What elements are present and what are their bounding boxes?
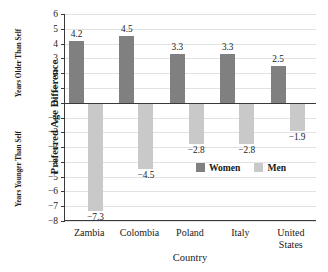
legend-swatch-men xyxy=(254,163,263,172)
bar-value-label: 4.5 xyxy=(107,24,147,34)
bar-value-label: −2.8 xyxy=(176,145,216,155)
y-axis-tick-label: −2 xyxy=(48,127,58,137)
x-axis-label: Italy xyxy=(215,227,265,239)
x-axis-label: Zambia xyxy=(64,227,114,239)
bar-women-colombia[interactable] xyxy=(119,36,134,103)
y-axis-tick xyxy=(61,177,66,178)
y-axis-tick xyxy=(61,118,66,119)
bar-value-label: 4.2 xyxy=(57,29,97,39)
y-axis-tick-label: −7 xyxy=(48,201,58,211)
y-axis-tick-label: 6 xyxy=(53,9,58,19)
bar-women-united-states[interactable] xyxy=(271,66,286,103)
bar-value-label: 2.5 xyxy=(258,54,298,64)
x-axis-label: United States xyxy=(266,227,316,250)
y-axis-tick-label: −5 xyxy=(48,172,58,182)
y-axis-tick xyxy=(61,206,66,207)
legend-item-women[interactable]: Women xyxy=(196,162,240,173)
legend-item-men[interactable]: Men xyxy=(254,162,286,173)
chart-title xyxy=(64,0,316,4)
bar-group: 3.3−2.8 xyxy=(216,14,266,220)
bar-group: 2.5−1.9 xyxy=(267,14,317,220)
y-axis-tick xyxy=(61,191,66,192)
bar-men-colombia[interactable] xyxy=(138,103,153,170)
bar-men-united-states[interactable] xyxy=(290,103,305,131)
y-axis-lower-label: Years Younger Than Self xyxy=(15,120,27,218)
x-axis-label: Colombia xyxy=(114,227,164,239)
plot-inner: 4.2−7.34.5−4.53.3−2.83.3−2.82.5−1.9 xyxy=(65,14,316,220)
bar-value-label: −1.9 xyxy=(277,132,317,142)
y-axis-tick xyxy=(61,221,66,222)
bar-women-poland[interactable] xyxy=(170,54,185,103)
bar-value-label: 3.3 xyxy=(157,42,197,52)
y-axis-tick xyxy=(61,132,66,133)
y-axis-tick xyxy=(61,88,66,89)
y-axis-tick-label: 3 xyxy=(53,53,58,63)
y-axis-upper-label: Years Older Than Self xyxy=(15,18,27,108)
y-axis-tick xyxy=(61,58,66,59)
plot-area: 4.2−7.34.5−4.53.3−2.83.3−2.82.5−1.9 6543… xyxy=(64,14,316,221)
bar-value-label: −2.8 xyxy=(227,145,267,155)
y-axis-tick-label: 1 xyxy=(53,83,58,93)
x-axis-title: Country xyxy=(64,252,316,263)
bar-men-zambia[interactable] xyxy=(88,103,103,211)
y-axis-tick-label: −4 xyxy=(48,157,58,167)
bar-women-zambia[interactable] xyxy=(69,41,84,103)
legend-swatch-women xyxy=(196,163,205,172)
bar-men-poland[interactable] xyxy=(189,103,204,144)
y-axis-tick xyxy=(61,147,66,148)
y-axis-tick-label: 0 xyxy=(53,98,58,108)
legend-label-men: Men xyxy=(267,162,286,173)
y-axis-tick xyxy=(61,29,66,30)
bar-value-label: −7.3 xyxy=(76,212,116,222)
y-axis-tick-label: −3 xyxy=(48,142,58,152)
y-axis-tick-label: −1 xyxy=(48,113,58,123)
bar-men-italy[interactable] xyxy=(239,103,254,144)
chart-figure: Preferred Age Difference Years Older Tha… xyxy=(0,0,328,272)
y-axis-tick-label: 5 xyxy=(53,24,58,34)
y-axis-tick xyxy=(61,73,66,74)
bar-value-label: 3.3 xyxy=(208,42,248,52)
y-axis-tick xyxy=(61,14,66,15)
bar-women-italy[interactable] xyxy=(220,54,235,103)
bar-group: 4.2−7.3 xyxy=(65,14,115,220)
y-axis-tick-label: 4 xyxy=(53,39,58,49)
y-axis-tick-label: −6 xyxy=(48,186,58,196)
y-axis-tick xyxy=(61,44,66,45)
zero-baseline xyxy=(65,103,316,104)
bar-value-label: −4.5 xyxy=(126,170,166,180)
x-axis-label: Poland xyxy=(165,227,215,239)
y-axis-tick-label: 2 xyxy=(53,68,58,78)
y-axis-tick xyxy=(61,162,66,163)
chart-legend: Women Men xyxy=(196,162,286,173)
y-axis-tick-label: −8 xyxy=(48,216,58,226)
legend-label-women: Women xyxy=(209,162,240,173)
